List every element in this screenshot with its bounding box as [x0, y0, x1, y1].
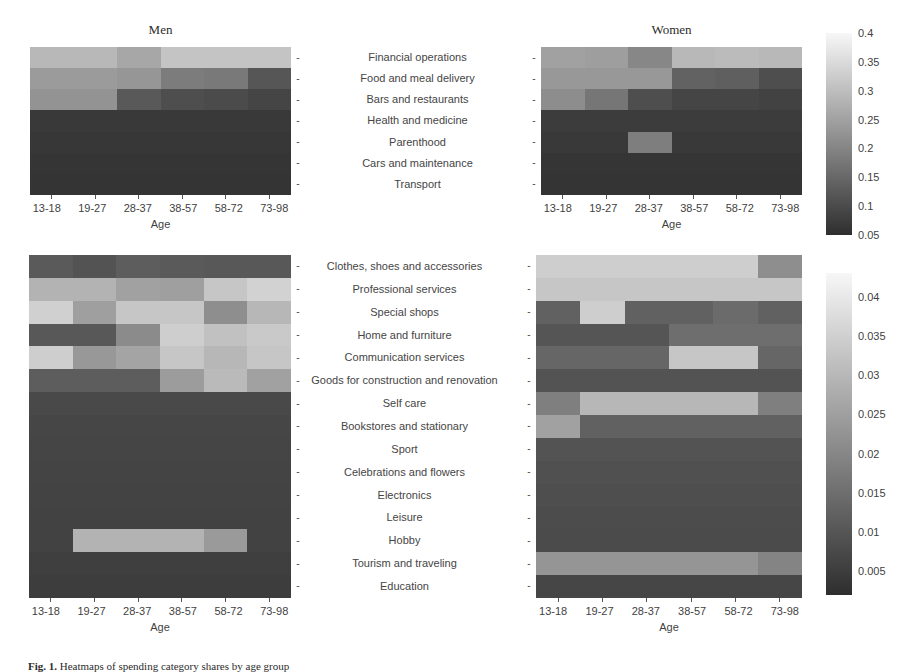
- heatmap-cell: [715, 174, 759, 195]
- heatmap-women-top[interactable]: [541, 47, 802, 195]
- xtick-mark: [758, 598, 802, 603]
- heatmap-cell: [669, 278, 713, 301]
- ytick-dash: -: [527, 581, 530, 591]
- ytick-dash: -: [532, 74, 535, 84]
- heatmap-men-bottom[interactable]: [29, 255, 291, 598]
- heatmap-cell: [204, 369, 248, 392]
- ytick-dash: -: [532, 158, 535, 168]
- heatmap-cell: [715, 68, 759, 89]
- heatmap-cell: [669, 484, 713, 507]
- heatmap-cell: [247, 507, 291, 530]
- heatmap-men-top[interactable]: [30, 47, 291, 195]
- heatmap-cell: [117, 132, 161, 153]
- category-label-column-top: Financial operationsFood and meal delive…: [310, 47, 525, 195]
- heatmap-cell: [672, 153, 716, 174]
- heatmap-cell: [580, 438, 624, 461]
- xtick-label: 19-27: [69, 605, 115, 617]
- ytick-dash: -: [527, 513, 530, 523]
- heatmap-cell: [204, 153, 248, 174]
- xtick-label: 28-37: [623, 605, 669, 617]
- heatmap-cell: [625, 507, 669, 530]
- category-label: Special shops: [288, 307, 521, 318]
- category-label: Health and medicine: [310, 115, 525, 126]
- heatmap-cell: [248, 110, 292, 131]
- heatmap-women-bottom[interactable]: [536, 255, 802, 598]
- heatmap-cell: [248, 68, 292, 89]
- heatmap-cell: [248, 132, 292, 153]
- heatmap-cell: [204, 324, 248, 347]
- heatmap-cell: [536, 484, 580, 507]
- heatmap-cell: [758, 324, 802, 347]
- heatmap-cell: [541, 47, 585, 68]
- heatmap-cell: [74, 89, 118, 110]
- heatmap-cell: [580, 255, 624, 278]
- ytick-dash: -: [527, 353, 530, 363]
- heatmap-cell: [585, 110, 629, 131]
- heatmap-cell: [759, 174, 803, 195]
- heatmap-cell: [713, 255, 757, 278]
- colorbar-bottom-gradient: [826, 273, 852, 595]
- heatmap-cell: [759, 89, 803, 110]
- category-label: Communication services: [288, 352, 521, 363]
- ytick-dash: -: [532, 53, 535, 63]
- colorbar-top-gradient: [826, 33, 852, 235]
- heatmap-cell: [541, 68, 585, 89]
- xtick-mark: [580, 598, 624, 603]
- heatmap-cell: [625, 529, 669, 552]
- xtick-label: 13-18: [24, 202, 70, 214]
- heatmap-cell: [117, 153, 161, 174]
- xlabels-men-top: 13-1819-2728-3738-5758-7273-98: [24, 202, 297, 214]
- heatmap-cell: [248, 174, 292, 195]
- heatmap-cell: [580, 301, 624, 324]
- xtick-mark: [628, 195, 672, 200]
- heatmap-cell: [247, 415, 291, 438]
- xtick-mark: [160, 598, 204, 603]
- heatmap-cell: [669, 438, 713, 461]
- heatmap-cell: [628, 89, 672, 110]
- heatmap-cell: [29, 278, 73, 301]
- xtick-mark: [585, 195, 629, 200]
- heatmap-cell: [204, 132, 248, 153]
- category-label: Self care: [288, 398, 521, 409]
- heatmap-cell: [247, 278, 291, 301]
- heatmap-cell: [672, 47, 716, 68]
- colorbar-tick-label: 0.15: [858, 171, 879, 183]
- heatmap-cell: [625, 324, 669, 347]
- colorbar-bottom[interactable]: [826, 273, 852, 595]
- category-label: Leisure: [288, 512, 521, 523]
- ytick-dash: -: [532, 179, 535, 189]
- heatmap-cell: [672, 110, 716, 131]
- heatmap-cell: [204, 507, 248, 530]
- xaxis-title-women-bottom: Age: [536, 621, 802, 633]
- heatmap-cell: [713, 529, 757, 552]
- heatmap-cell: [204, 278, 248, 301]
- category-label: Clothes, shoes and accessories: [288, 261, 521, 272]
- heatmap-cell: [758, 529, 802, 552]
- heatmap-cell: [204, 529, 248, 552]
- heatmap-cell: [580, 529, 624, 552]
- heatmap-cell: [758, 484, 802, 507]
- xtick-mark: [161, 195, 205, 200]
- figure-caption: Fig. 1. Heatmaps of spending category sh…: [28, 660, 289, 672]
- xtick-mark: [204, 195, 248, 200]
- ytick-column-women-bottom: ---------------: [524, 255, 534, 598]
- heatmap-cell: [580, 484, 624, 507]
- heatmap-cell: [116, 255, 160, 278]
- heatmap-cell: [625, 255, 669, 278]
- figure-caption-prefix: Fig. 1.: [28, 660, 57, 672]
- heatmap-cell: [116, 484, 160, 507]
- xticks-men-bottom: [29, 598, 291, 603]
- xticks-women-top: [541, 195, 802, 200]
- heatmap-cell: [29, 346, 73, 369]
- heatmap-cell: [672, 89, 716, 110]
- heatmap-cell: [247, 255, 291, 278]
- colorbar-top[interactable]: [826, 33, 852, 235]
- xlabels-women-bottom: 13-1819-2728-3738-5758-7273-98: [530, 605, 808, 617]
- xtick-label: 13-18: [535, 202, 581, 214]
- heatmap-cell: [204, 301, 248, 324]
- heatmap-cell: [758, 255, 802, 278]
- ytick-dash: -: [296, 74, 299, 84]
- heatmap-cell: [585, 174, 629, 195]
- heatmap-cell: [30, 47, 74, 68]
- colorbar-tick-label: 0.05: [858, 229, 879, 241]
